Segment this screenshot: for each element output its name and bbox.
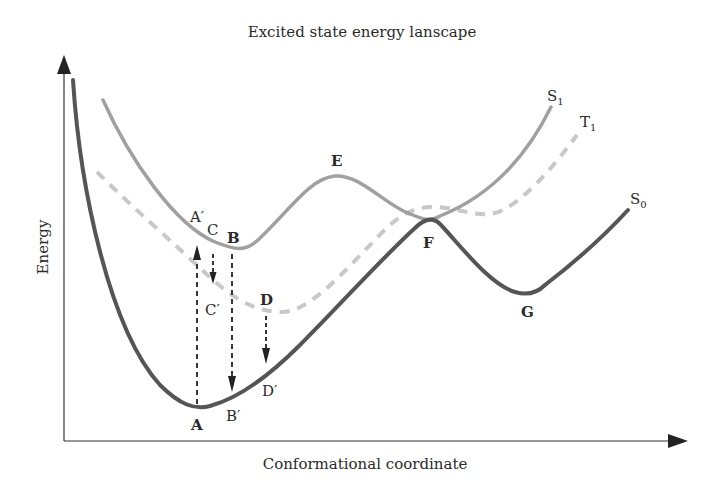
label-g: G <box>521 303 534 321</box>
label-c: C <box>207 221 218 239</box>
label-t1: T1 <box>580 113 596 133</box>
s0-curve <box>73 80 628 407</box>
y-axis-arrow-icon <box>57 55 71 74</box>
arrow-up-icon <box>193 245 201 260</box>
arrow-down-icon <box>228 376 236 392</box>
label-c-prime: C′ <box>205 301 220 319</box>
s1-curve <box>103 100 551 249</box>
label-d-prime: D′ <box>262 382 278 400</box>
label-a-prime: A′ <box>189 208 205 226</box>
x-axis-label: Conformational coordinate <box>263 455 468 473</box>
label-d: D <box>260 291 273 309</box>
energy-landscape-diagram: Excited state energy lanscape Conformati… <box>0 0 725 491</box>
label-a: A <box>190 416 203 434</box>
axes <box>57 55 688 448</box>
label-b-prime: B′ <box>226 407 241 425</box>
arrow-down-icon <box>210 272 217 284</box>
label-f: F <box>423 234 434 252</box>
diagram-title: Excited state energy lanscape <box>248 23 477 41</box>
label-b: B <box>227 229 240 247</box>
curve-labels: S1 T1 S0 <box>547 87 647 210</box>
y-axis-label: Energy <box>34 219 52 274</box>
arrow-down-icon <box>262 348 270 364</box>
label-e: E <box>331 152 342 170</box>
x-axis-arrow-icon <box>668 434 688 448</box>
label-s0: S0 <box>630 190 647 210</box>
label-s1: S1 <box>547 87 564 107</box>
